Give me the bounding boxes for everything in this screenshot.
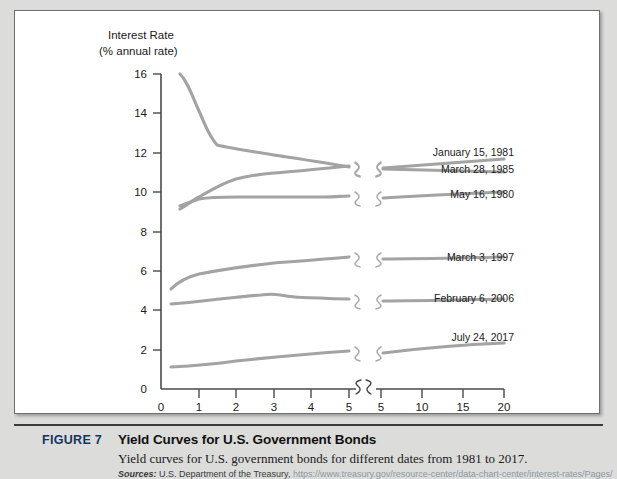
curve-break-icon	[355, 253, 360, 267]
curve-label-january-15-1981: January 15, 1981	[433, 146, 514, 158]
y-tick-label: 12	[134, 147, 147, 159]
chart-panel: Interest Rate (% annual rate) 16 14 12 1…	[14, 10, 600, 414]
curve-march-28-1985-left	[180, 166, 349, 209]
x-tick-label-left: 2	[233, 401, 239, 413]
caption-divider	[14, 424, 603, 426]
curve-break-icon	[376, 295, 381, 309]
curve-break-icon	[355, 295, 360, 309]
curve-may-16-1980-left	[180, 196, 349, 206]
curve-label-march-3-1997: March 3, 1997	[447, 251, 514, 263]
curve-label-march-28-1985: March 28, 1985	[441, 163, 514, 175]
x-tick-label-left: 0	[158, 401, 164, 413]
curve-january-15-1981-left	[180, 74, 349, 167]
curve-label-july-24-2017: July 24, 2017	[452, 331, 515, 343]
y-axis-title-line1: Interest Rate	[108, 29, 174, 41]
x-tick-label-right: 20	[498, 401, 511, 413]
x-axis-ticks-left: 0 1 2 3 4 5	[158, 389, 352, 413]
x-tick-label-right: 10	[416, 401, 429, 413]
curve-july-24-2017-left	[171, 351, 349, 367]
figure-label: FIGURE 7	[42, 433, 102, 447]
figure-title: Yield Curves for U.S. Government Bonds	[118, 432, 376, 447]
y-tick-label: 8	[141, 226, 147, 238]
sources-url[interactable]: https://www.treasury.gov/resource-center…	[293, 469, 612, 479]
y-tick-label: 10	[134, 186, 147, 198]
sources-prefix: Sources:	[118, 469, 157, 479]
figure-sources: Sources: U.S. Department of the Treasury…	[118, 469, 612, 479]
curve-february-6-2006-left	[171, 294, 349, 304]
x-tick-label-left: 1	[196, 401, 202, 413]
curve-break-icon	[376, 192, 381, 206]
x-tick-label-right: 15	[457, 401, 470, 413]
y-tick-label: 2	[141, 344, 147, 356]
x-tick-label-left: 4	[308, 401, 315, 413]
y-tick-label: 16	[134, 68, 147, 80]
figure-page: Interest Rate (% annual rate) 16 14 12 1…	[0, 0, 617, 479]
y-tick-label: 14	[134, 107, 147, 119]
curve-break-icon	[355, 347, 360, 361]
curve-break-icon	[376, 253, 381, 267]
curve-label-may-16-1980: May 16, 1980	[450, 188, 514, 200]
y-axis-ticks: 16 14 12 10 8 6 4 2 0	[134, 68, 161, 395]
curve-july-24-2017-right	[383, 343, 504, 353]
axis-break-icon-right	[366, 380, 371, 394]
y-axis-title-line2: (% annual rate)	[99, 45, 178, 57]
x-tick-label-left: 3	[271, 401, 277, 413]
yield-curve-chart: Interest Rate (% annual rate) 16 14 12 1…	[15, 11, 599, 413]
y-tick-label: 4	[141, 304, 148, 316]
y-tick-label: 6	[141, 265, 147, 277]
figure-subtitle: Yield curves for U.S. government bonds f…	[118, 451, 528, 467]
x-tick-label-right: 5	[378, 401, 384, 413]
x-axis-ticks-right: 5 10 15 20	[378, 389, 511, 413]
x-tick-label-left: 5	[346, 401, 352, 413]
sources-text: U.S. Department of the Treasury,	[159, 469, 290, 479]
curve-march-3-1997-left	[171, 257, 349, 289]
axis-break-icon-left	[356, 380, 361, 394]
curve-label-february-6-2006: February 6, 2006	[434, 292, 514, 304]
y-tick-label: 0	[141, 383, 147, 395]
figure-caption: FIGURE 7 Yield Curves for U.S. Governmen…	[0, 424, 617, 479]
curve-break-icon	[355, 192, 360, 206]
curve-break-icon	[376, 347, 381, 361]
